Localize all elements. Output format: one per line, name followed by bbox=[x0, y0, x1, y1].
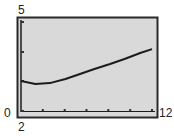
screen-frame bbox=[18, 18, 158, 118]
calculator-graph-screen bbox=[0, 0, 174, 136]
